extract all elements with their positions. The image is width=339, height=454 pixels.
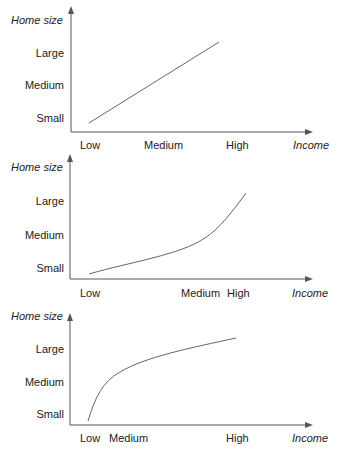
chart-panel-concave: Home size Large Medium Small Low Medium … [0,300,339,454]
y-axis-title: Home size [0,310,63,322]
x-tick-high: High [227,287,250,299]
x-tick-low: Low [80,287,100,299]
x-tick-medium: Medium [109,432,148,444]
y-tick-large: Large [4,47,64,59]
y-tick-medium: Medium [4,376,64,388]
data-curve [89,193,246,274]
x-axis-title: Income [292,287,328,299]
x-axis-arrow-icon [305,422,313,428]
y-tick-large: Large [4,343,64,355]
x-tick-low: Low [80,432,100,444]
y-axis-arrow-icon [68,6,74,14]
y-axis-title: Home size [0,161,63,173]
x-tick-high: High [226,432,249,444]
y-tick-large: Large [4,195,64,207]
x-axis-title: Income [292,432,328,444]
y-axis-arrow-icon [67,313,73,321]
y-tick-small: Small [4,262,64,274]
data-curve [88,338,236,421]
y-tick-medium: Medium [4,229,64,241]
x-axis-arrow-icon [305,129,313,135]
chart-panel-convex: Home size Large Medium Small Low Medium … [0,150,339,300]
y-tick-medium: Medium [4,79,64,91]
x-tick-medium: Medium [181,287,220,299]
y-axis-arrow-icon [67,154,73,162]
x-axis-arrow-icon [305,276,313,282]
data-line [89,42,219,123]
y-tick-small: Small [4,408,64,420]
chart-panel-linear: Home size Large Medium Small Low Medium … [0,0,339,150]
y-tick-small: Small [4,112,64,124]
y-axis-title: Home size [0,14,63,26]
